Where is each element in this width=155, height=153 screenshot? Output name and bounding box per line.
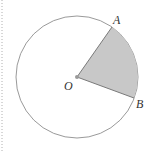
shaded-sector-aob	[77, 27, 138, 98]
label-o: O	[64, 79, 73, 93]
center-point-o	[75, 75, 79, 79]
sector-diagram: O A B	[0, 0, 155, 153]
label-a: A	[112, 13, 121, 27]
diagram-svg: O A B	[0, 0, 155, 153]
label-b: B	[136, 97, 144, 111]
